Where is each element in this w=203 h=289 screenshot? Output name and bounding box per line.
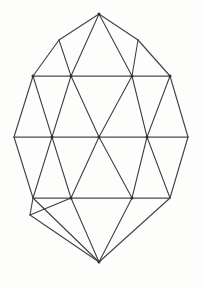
vertex-r3-center: [98, 136, 101, 139]
diagram-canvas: [0, 0, 203, 289]
vertex-r3-b: [146, 136, 149, 139]
vertex-apex-bottom: [98, 261, 101, 264]
vertex-r2-left-end: [32, 75, 35, 78]
vertex-r3-a: [51, 136, 54, 139]
vertex-r4-b: [131, 197, 134, 200]
vertex-r2-a: [70, 75, 73, 78]
vertex-r4-a: [70, 197, 73, 200]
vertex-r2-right-end: [169, 75, 172, 78]
vertex-apex-top: [98, 13, 101, 16]
diagram-background: [0, 0, 203, 289]
triangulated-polygon-figure: [0, 0, 203, 289]
vertex-r2-b: [131, 75, 134, 78]
